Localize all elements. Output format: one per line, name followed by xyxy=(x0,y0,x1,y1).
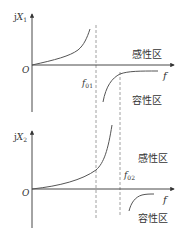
top-x-axis-label: f xyxy=(162,70,169,81)
bottom-x-axis-label: f xyxy=(162,194,169,205)
top-y-axis-label: jX1 xyxy=(13,12,27,23)
bottom-origin-label: O xyxy=(22,188,30,198)
top-origin-label: O xyxy=(22,65,30,75)
bottom-inductive-region-label: 感性区 xyxy=(138,152,168,164)
bottom-y-axis-label: jX2 xyxy=(13,132,27,143)
top-capacitive-region-label: 容性区 xyxy=(132,94,162,106)
bottom-capacitive-curve xyxy=(129,194,154,211)
bottom-f02-label: f02 xyxy=(123,170,135,181)
bottom-plot: jX2 O f f02 感性区 容性区 xyxy=(13,125,174,228)
top-inductive-region-label: 感性区 xyxy=(132,48,162,60)
bottom-capacitive-region-label: 容性区 xyxy=(138,212,168,224)
bottom-inductive-curve xyxy=(32,125,112,189)
top-inductive-curve xyxy=(32,29,90,65)
top-plot: jX1 O f f01 感性区 容性区 xyxy=(13,12,174,112)
top-f01-label: f01 xyxy=(81,78,93,89)
reactance-diagram: jX1 O f f01 感性区 容性区 jX2 O f f02 感性区 容性区 xyxy=(0,0,183,238)
